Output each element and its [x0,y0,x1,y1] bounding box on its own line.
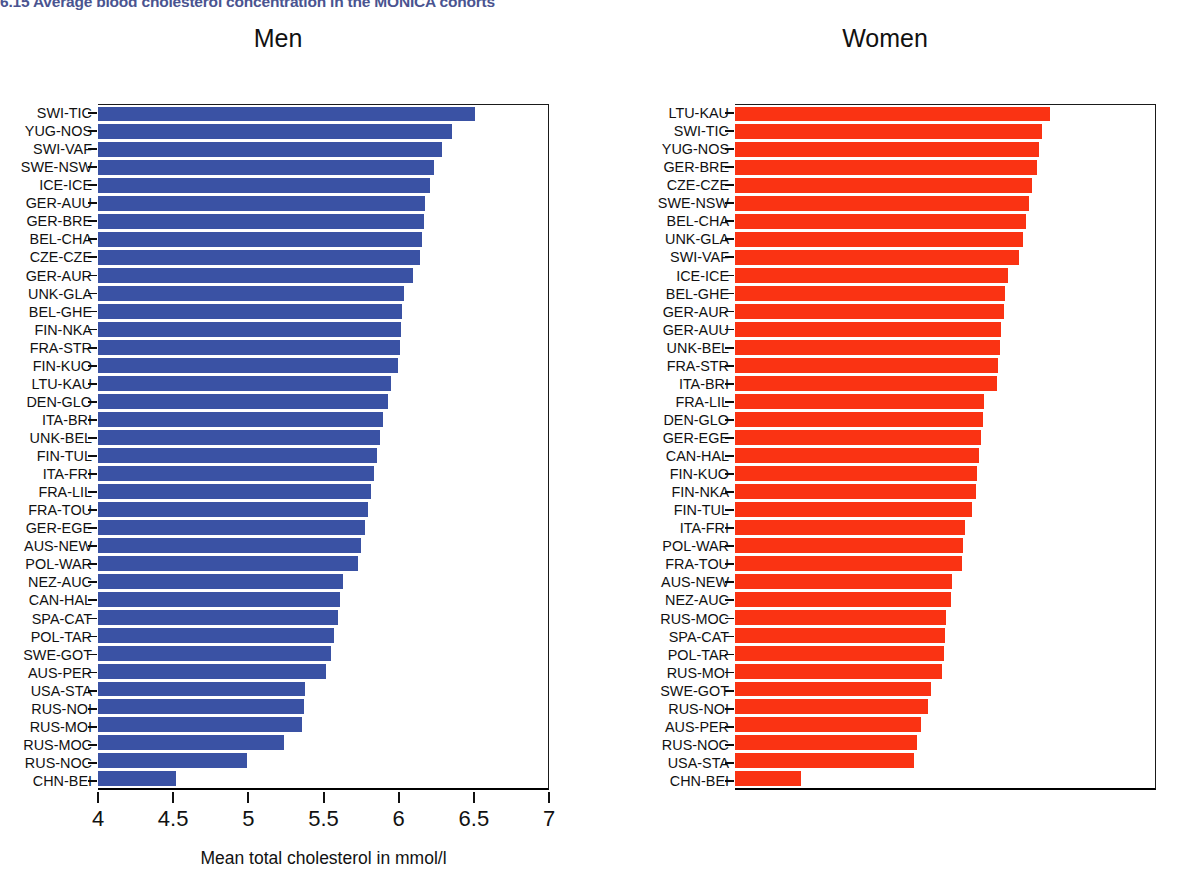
bar [98,628,334,643]
category-label: RUS-NOC [25,756,92,770]
category-label: ITA-FRI [680,521,729,535]
category-tick [88,780,97,782]
category-tick [88,726,97,728]
x-axis-men: Mean total cholesterol in mmol/l 44.555.… [98,792,549,818]
x-tick [247,792,249,803]
bar-row [735,105,1155,123]
bar-row [98,590,548,608]
bar [98,124,452,139]
bar-row [98,159,548,177]
category-tick [88,238,97,240]
bar-row [735,141,1155,159]
bar [98,664,326,679]
bar [735,682,931,697]
category-label: ICE-ICE [39,178,92,192]
bar [735,322,1001,337]
category-tick [88,329,97,331]
category-tick [725,419,734,421]
category-tick [725,455,734,457]
x-tick [473,792,475,803]
bar [98,412,383,427]
category-tick [88,437,97,439]
bar-row [98,734,548,752]
category-tick [725,437,734,439]
category-tick [725,473,734,475]
category-label: GER-EGE [26,521,92,535]
bar [98,753,247,768]
category-label: BEL-CHA [667,214,729,228]
category-tick [88,636,97,638]
bar-row [735,662,1155,680]
category-tick [88,690,97,692]
category-label: UNK-BEL [30,431,92,445]
bar [98,304,402,319]
category-tick [88,347,97,349]
category-tick [725,599,734,601]
category-label: RUS-MOC [660,612,729,626]
bar-row [98,680,548,698]
category-tick [88,545,97,547]
category-tick [725,780,734,782]
category-label: FIN-TUL [674,503,729,517]
bar [98,610,338,625]
bar [735,232,1023,247]
bar-row [735,159,1155,177]
category-label: RUS-NOC [662,738,729,752]
category-tick [88,166,97,168]
category-tick [725,311,734,313]
bar-row [735,249,1155,267]
category-label: RUS-MOI [30,720,92,734]
category-label: DEN-GLO [663,413,729,427]
category-tick [725,726,734,728]
bar-row [735,267,1155,285]
bar [98,178,430,193]
category-tick [725,238,734,240]
category-label: NEZ-AUC [28,575,92,589]
bar [98,556,358,571]
category-label: POL-TAR [668,648,729,662]
bar [735,592,951,607]
bar [98,160,434,175]
category-label: SPA-CAT [32,612,92,626]
category-label: USA-STA [31,684,92,698]
category-label: AUS-NEW [24,539,92,553]
category-label: ITA-BRI [679,377,729,391]
category-tick [725,618,734,620]
bar-row [98,105,548,123]
bar-row [735,285,1155,303]
category-tick [725,293,734,295]
category-tick [725,184,734,186]
bar [735,484,976,499]
x-tick-label: 4.5 [158,806,189,832]
category-tick [88,708,97,710]
x-tick-label: 6 [393,806,405,832]
category-label: RUS-MOC [23,738,92,752]
bar-row [735,518,1155,536]
category-label: POL-TAR [31,630,92,644]
category-label: GER-EGE [663,431,729,445]
bar-row [98,303,548,321]
category-tick [725,166,734,168]
bar [735,735,917,750]
figure-page: 6.15 Average blood cholesterol concentra… [0,0,1182,895]
category-label: CZE-CZE [667,178,729,192]
bar [735,430,981,445]
bar-row [98,428,548,446]
bar [98,484,371,499]
category-label: FIN-TUL [37,449,92,463]
x-tick-label: 4 [92,806,104,832]
category-tick [725,202,734,204]
bar [98,340,400,355]
bar [98,502,368,517]
category-label: UNK-GLA [28,287,92,301]
category-label: SWE-NSW [21,160,92,174]
category-label: UNK-BEL [667,341,729,355]
category-tick [88,383,97,385]
category-label: SWE-NSW [658,196,729,210]
bar-row [98,500,548,518]
category-label: SPA-CAT [669,630,729,644]
category-tick [88,744,97,746]
x-tick [398,792,400,803]
bar-row [98,321,548,339]
bar-row [735,572,1155,590]
